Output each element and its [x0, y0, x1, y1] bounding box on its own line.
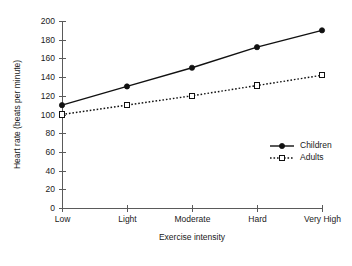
y-tick-label: 140: [41, 72, 55, 82]
data-point: [189, 65, 194, 70]
legend-label: Children: [300, 140, 332, 150]
data-point: [124, 102, 129, 107]
x-tick-label: Low: [55, 214, 71, 224]
y-tick-label: 80: [46, 128, 56, 138]
y-tick-label: 20: [46, 184, 56, 194]
y-tick-label: 180: [41, 35, 55, 45]
x-tick-label: Hard: [248, 214, 267, 224]
x-tick-label: Very High: [304, 214, 341, 224]
x-tick-label: Light: [118, 214, 137, 224]
legend-swatch-marker: [279, 155, 284, 160]
y-axis-title: Heart rate (beats per minute): [12, 60, 22, 169]
chart-figure: 020406080100120140160180200LowLightModer…: [0, 0, 352, 266]
y-tick-label: 200: [41, 16, 55, 26]
data-point: [319, 28, 324, 33]
y-tick-label: 60: [46, 147, 56, 157]
data-point: [254, 45, 259, 50]
data-point: [254, 83, 259, 88]
data-point: [124, 84, 129, 89]
x-tick-label: Moderate: [175, 214, 211, 224]
legend-swatch-marker: [279, 143, 284, 148]
data-point: [319, 73, 324, 78]
line-chart-canvas: 020406080100120140160180200LowLightModer…: [0, 0, 352, 266]
legend-label: Adults: [300, 152, 324, 162]
x-axis-title: Exercise intensity: [159, 232, 226, 242]
y-tick-label: 120: [41, 91, 55, 101]
y-tick-label: 40: [46, 166, 56, 176]
y-tick-label: 100: [41, 110, 55, 120]
data-point: [59, 112, 64, 117]
y-tick-label: 160: [41, 53, 55, 63]
data-point: [189, 93, 194, 98]
data-point: [59, 103, 64, 108]
y-tick-label: 0: [50, 203, 55, 213]
